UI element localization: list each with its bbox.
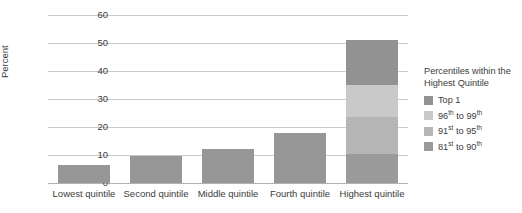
legend-items: Top 196th to 99th91st to 95th81st to 90t… bbox=[424, 96, 520, 153]
legend-item-label: 91st to 95th bbox=[438, 125, 482, 136]
y-axis-title: Percent bbox=[0, 45, 10, 78]
chart-legend: Percentiles within the Highest Quintile … bbox=[424, 66, 520, 157]
legend-title: Percentiles within the Highest Quintile bbox=[424, 66, 520, 89]
legend-item-label: 81st to 90th bbox=[438, 141, 482, 152]
legend-item[interactable]: 96th to 99th bbox=[424, 110, 520, 121]
bar-segment bbox=[346, 40, 398, 85]
legend-item[interactable]: 81st to 90th bbox=[424, 141, 520, 152]
x-axis-tick-label: Lowest quintile bbox=[48, 188, 120, 199]
x-axis-tick-label: Fourth quintile bbox=[264, 188, 336, 199]
legend-swatch bbox=[424, 96, 433, 105]
bar-column bbox=[130, 156, 182, 183]
bar-segment bbox=[346, 117, 398, 153]
legend-item[interactable]: Top 1 bbox=[424, 96, 520, 105]
bar-segment bbox=[58, 165, 110, 183]
bar-segment bbox=[202, 149, 254, 183]
legend-item-label: 96th to 99th bbox=[438, 110, 482, 121]
x-axis-tick-label: Highest quintile bbox=[336, 188, 408, 199]
legend-item-label: Top 1 bbox=[438, 96, 460, 105]
bar-segment bbox=[346, 154, 398, 183]
bar-series-container bbox=[48, 15, 408, 183]
legend-title-line-2: Highest Quintile bbox=[424, 78, 520, 90]
x-axis-tick-label: Second quintile bbox=[120, 188, 192, 199]
legend-swatch bbox=[424, 111, 433, 120]
bar-segment bbox=[274, 133, 326, 183]
bar-column bbox=[346, 40, 398, 183]
bar-segment bbox=[130, 156, 182, 183]
bar-segment bbox=[346, 85, 398, 117]
legend-swatch bbox=[424, 142, 433, 151]
bar-column bbox=[58, 165, 110, 183]
legend-title-line-1: Percentiles within the bbox=[424, 66, 520, 78]
x-axis-tick-label: Middle quintile bbox=[192, 188, 264, 199]
legend-item[interactable]: 91st to 95th bbox=[424, 125, 520, 136]
bar-column bbox=[202, 149, 254, 183]
bar-column bbox=[274, 133, 326, 183]
legend-swatch bbox=[424, 127, 433, 136]
bar-chart: 0102030405060 Percent Lowest quintileSec… bbox=[0, 0, 522, 213]
